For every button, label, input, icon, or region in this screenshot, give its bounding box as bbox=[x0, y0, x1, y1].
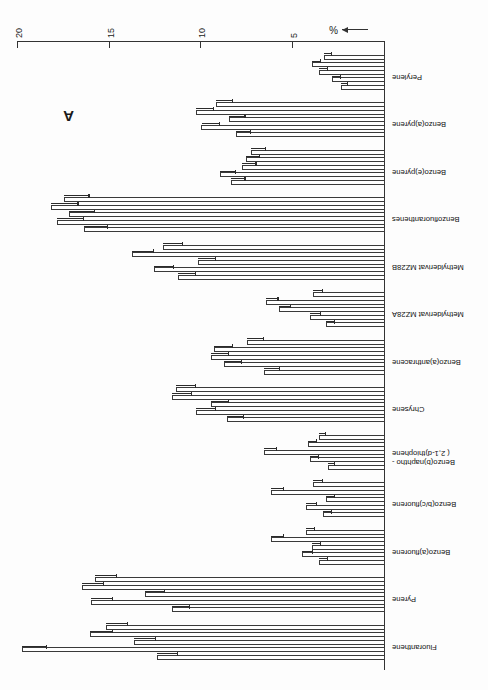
bar bbox=[242, 165, 385, 170]
error-bar bbox=[51, 203, 79, 204]
error-bar bbox=[214, 346, 232, 347]
error-bar-cap bbox=[77, 202, 78, 206]
error-bar-cap bbox=[327, 557, 328, 561]
error-bar-cap bbox=[195, 384, 196, 388]
error-bar-cap bbox=[331, 52, 332, 56]
category-label: Methylderivat MZ28B bbox=[392, 263, 484, 272]
error-bar-cap bbox=[215, 257, 216, 261]
error-bar-cap bbox=[334, 320, 335, 324]
error-bar-cap bbox=[173, 265, 174, 269]
category-label: Benzo(b/c)fluorene bbox=[392, 501, 484, 510]
error-bar bbox=[106, 623, 128, 624]
category-label: Benzo(a)anthracene bbox=[392, 358, 484, 367]
bar-group: Methylderivat MZ28B bbox=[0, 239, 488, 287]
error-bar-cap bbox=[232, 99, 233, 103]
error-bar-cap bbox=[88, 194, 89, 198]
bar-group: Chrysene bbox=[0, 381, 488, 429]
bar bbox=[224, 362, 385, 367]
bar bbox=[323, 513, 385, 518]
bar bbox=[247, 340, 385, 345]
error-bar-cap bbox=[255, 162, 256, 166]
category-label-line: Benzo(a)anthracene bbox=[392, 358, 484, 367]
error-bar-cap bbox=[320, 542, 321, 546]
error-bar bbox=[251, 148, 266, 149]
error-bar-cap bbox=[265, 147, 266, 151]
error-bar-cap bbox=[215, 407, 216, 411]
error-bar bbox=[176, 385, 196, 386]
bar-group: Benzo(b)naphtho -( 2,1-d)thiophene bbox=[0, 429, 488, 477]
error-bar bbox=[224, 361, 242, 362]
x-tick-15 bbox=[109, 41, 110, 48]
bar bbox=[172, 395, 385, 400]
error-bar-cap bbox=[177, 652, 178, 656]
category-label-line: Benzo(a)pyrene bbox=[392, 121, 484, 130]
error-bar-cap bbox=[94, 210, 95, 214]
error-bar-cap bbox=[235, 170, 236, 174]
error-bar-cap bbox=[314, 527, 315, 531]
x-axis-unit: % bbox=[329, 24, 368, 35]
bar bbox=[246, 157, 385, 162]
error-bar bbox=[211, 401, 229, 402]
category-label-line: Methylderivat MZ28A bbox=[392, 311, 484, 320]
bar bbox=[308, 442, 385, 447]
error-bar bbox=[145, 591, 165, 592]
error-bar bbox=[178, 273, 196, 274]
error-bar bbox=[236, 131, 251, 132]
bar bbox=[231, 180, 385, 185]
bar bbox=[90, 632, 385, 637]
error-bar-cap bbox=[195, 272, 196, 276]
bar bbox=[163, 245, 385, 250]
error-bar bbox=[231, 178, 246, 179]
error-bar-cap bbox=[46, 645, 47, 649]
bar bbox=[211, 355, 385, 360]
left-arrow-icon bbox=[342, 26, 368, 34]
bar bbox=[312, 545, 385, 550]
error-bar-cap bbox=[155, 637, 156, 641]
error-bar bbox=[154, 266, 174, 267]
bar bbox=[251, 150, 385, 155]
bar bbox=[211, 402, 385, 407]
error-bar bbox=[229, 116, 246, 117]
error-bar bbox=[84, 226, 108, 227]
x-tick-label-5: 5 bbox=[289, 33, 299, 38]
bar bbox=[319, 435, 385, 440]
bar bbox=[264, 450, 385, 455]
error-bar-cap bbox=[182, 242, 183, 246]
bar bbox=[145, 592, 385, 597]
bar bbox=[266, 300, 385, 305]
error-bar bbox=[91, 598, 113, 599]
category-label: Benzo(b)naphtho -( 2,1-d)thiophene bbox=[392, 449, 484, 467]
error-bar-cap bbox=[316, 502, 317, 506]
category-label-line: Fluoranthene bbox=[392, 643, 484, 652]
percent-label: % bbox=[329, 24, 338, 35]
error-bar bbox=[247, 338, 264, 339]
error-bar-cap bbox=[320, 59, 321, 63]
category-label-line: Benzo(e)pyrene bbox=[392, 168, 484, 177]
x-tick-20 bbox=[17, 41, 18, 48]
category-label: Fluoranthene bbox=[392, 643, 484, 652]
category-label: Pyrene bbox=[392, 596, 484, 605]
bar bbox=[178, 275, 385, 280]
x-axis-line bbox=[18, 41, 385, 42]
bar-group: Fluoranthene bbox=[0, 619, 488, 667]
category-label-line: Methylderivat MZ28B bbox=[392, 263, 484, 272]
bar bbox=[227, 418, 385, 423]
error-bar-cap bbox=[228, 400, 229, 404]
bar bbox=[220, 172, 385, 177]
bar bbox=[106, 625, 385, 630]
error-bar-cap bbox=[191, 392, 192, 396]
error-bar-cap bbox=[318, 455, 319, 459]
bar bbox=[198, 260, 385, 265]
error-bar bbox=[172, 393, 192, 394]
error-bar-cap bbox=[312, 550, 313, 554]
category-label-line: ( 2,1-d)thiophene bbox=[392, 449, 484, 458]
error-bar-cap bbox=[164, 590, 165, 594]
error-bar bbox=[216, 100, 233, 101]
bar bbox=[196, 410, 385, 415]
bar bbox=[279, 307, 385, 312]
error-bar-cap bbox=[83, 217, 84, 221]
bar bbox=[69, 212, 385, 217]
bar bbox=[64, 197, 385, 202]
error-bar bbox=[172, 606, 190, 607]
error-bar bbox=[196, 108, 214, 109]
